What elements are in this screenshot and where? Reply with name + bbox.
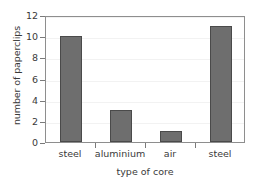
x-axis-tick-label: aluminium — [95, 149, 145, 159]
y-axis-tick-mark — [40, 16, 45, 17]
y-axis-tick-labels: 024681012 — [14, 16, 38, 143]
bar — [60, 36, 82, 142]
y-axis-tick-mark — [40, 58, 45, 59]
x-axis-tick-label: air — [164, 149, 176, 159]
y-axis-tick-mark — [40, 80, 45, 81]
y-axis-tick-mark — [40, 101, 45, 102]
bar — [110, 110, 132, 142]
y-axis-tick-mark — [40, 143, 45, 144]
y-axis-tick-label: 4 — [14, 96, 38, 106]
y-axis-tick-label: 10 — [14, 32, 38, 42]
bar — [210, 26, 232, 142]
y-axis-tick-mark — [40, 122, 45, 123]
x-axis-tick-label: steel — [208, 149, 231, 159]
y-axis-tick-label: 12 — [14, 11, 38, 21]
x-axis-title: type of core — [45, 166, 245, 177]
plot-area — [45, 16, 245, 143]
x-axis-tick-label: steel — [58, 149, 81, 159]
bar — [160, 131, 182, 142]
y-axis-tick-mark — [40, 37, 45, 38]
bar-chart-figure: number of paperclips 024681012 type of c… — [0, 0, 256, 188]
gridline — [46, 17, 244, 18]
y-axis-tick-label: 6 — [14, 75, 38, 85]
y-axis-tick-label: 8 — [14, 54, 38, 64]
y-axis-tick-label: 0 — [14, 138, 38, 148]
x-axis-tick-mark — [195, 143, 196, 148]
x-axis-tick-mark — [145, 143, 146, 148]
y-axis-tick-label: 2 — [14, 117, 38, 127]
